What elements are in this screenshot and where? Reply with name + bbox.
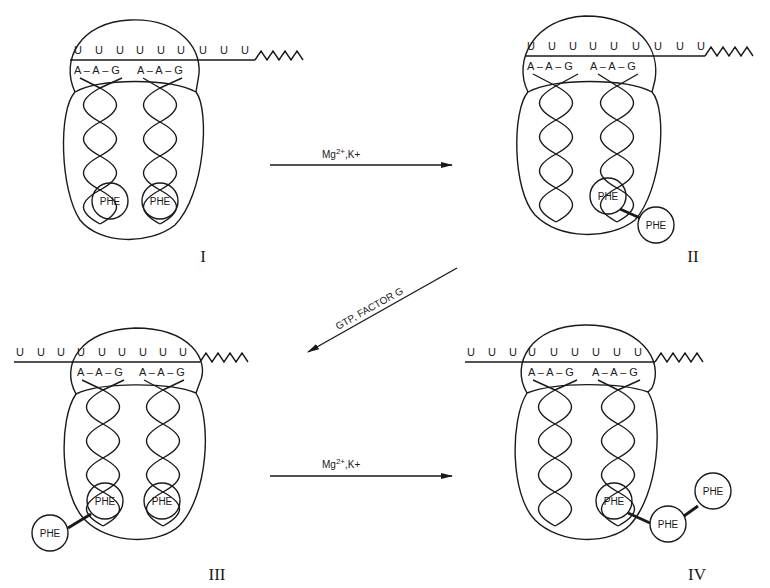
svg-text:GTP, FACTOR G: GTP, FACTOR G	[334, 285, 406, 332]
svg-text:U: U	[95, 44, 103, 56]
svg-text:U: U	[159, 346, 167, 358]
svg-text:U: U	[654, 40, 662, 52]
svg-text:A – A – G: A – A – G	[527, 60, 573, 72]
svg-text:U: U	[613, 346, 621, 358]
svg-text:A – A – G: A – A – G	[528, 366, 574, 378]
svg-text:U: U	[136, 44, 144, 56]
svg-text:U: U	[589, 40, 597, 52]
svg-text:U: U	[179, 346, 187, 358]
svg-text:U: U	[548, 40, 556, 52]
condition-label: Mg2+,K+	[322, 147, 360, 160]
svg-text:U: U	[488, 346, 496, 358]
svg-text:Mg2+,K+: Mg2+,K+	[322, 457, 360, 470]
svg-text:U: U	[77, 346, 85, 358]
svg-text:A – A – G: A – A – G	[139, 366, 185, 378]
anticodon-2: A – A – G	[137, 64, 183, 76]
svg-text:U: U	[118, 346, 126, 358]
svg-text:U: U	[177, 44, 185, 56]
panel-II: U U U U U U U U U A – A – G A – A – G PH…	[517, 16, 753, 266]
svg-text:IV: IV	[688, 565, 707, 584]
svg-text:U: U	[157, 44, 165, 56]
svg-text:U: U	[592, 346, 600, 358]
svg-text:III: III	[209, 565, 226, 584]
svg-text:A – A – G: A – A – G	[77, 366, 123, 378]
svg-text:II: II	[687, 247, 699, 266]
svg-text:PHE: PHE	[150, 196, 171, 207]
mrna-tail	[255, 51, 303, 60]
codons: U U U U U U U U U	[74, 44, 249, 56]
panel-IV: U U U U U U U U U A – A – G A – A – G PH…	[465, 325, 731, 584]
svg-text:U: U	[509, 346, 517, 358]
svg-text:PHE: PHE	[40, 528, 61, 539]
panel-III: U U U U U U U U U A – A – G A – A – G PH…	[14, 328, 248, 584]
svg-text:U: U	[610, 40, 618, 52]
large-subunit	[517, 82, 661, 235]
svg-text:U: U	[16, 346, 24, 358]
small-subunit	[523, 16, 656, 92]
svg-text:U: U	[74, 44, 82, 56]
arrow-I-to-II: Mg2+,K+	[270, 147, 452, 165]
svg-text:U: U	[98, 346, 106, 358]
svg-text:U: U	[116, 44, 124, 56]
svg-text:PHE: PHE	[152, 496, 173, 507]
svg-text:U: U	[528, 346, 536, 358]
svg-text:A – A – G: A – A – G	[590, 60, 636, 72]
svg-text:A – A – G: A – A – G	[592, 366, 638, 378]
svg-text:U: U	[569, 40, 577, 52]
svg-text:U: U	[199, 44, 207, 56]
svg-text:U: U	[241, 44, 249, 56]
svg-text:PHE: PHE	[95, 496, 116, 507]
svg-text:U: U	[550, 346, 558, 358]
svg-text:PHE: PHE	[100, 196, 121, 207]
svg-text:PHE: PHE	[703, 486, 724, 497]
svg-text:U: U	[676, 40, 684, 52]
svg-text:U: U	[632, 40, 640, 52]
svg-text:U: U	[467, 346, 475, 358]
svg-text:PHE: PHE	[658, 519, 679, 530]
panel-label: I	[200, 247, 206, 266]
large-subunit	[64, 82, 204, 240]
svg-text:PHE: PHE	[604, 496, 625, 507]
svg-text:U: U	[37, 346, 45, 358]
svg-text:PHE: PHE	[646, 220, 667, 231]
panel-I: U U U U U U U U U A – A – G A – A – G PH…	[64, 20, 303, 266]
arrow-II-to-III: GTP, FACTOR G	[308, 268, 457, 352]
svg-text:U: U	[57, 346, 65, 358]
codons: U U U U U U U U U	[527, 40, 705, 52]
svg-text:U: U	[139, 346, 147, 358]
svg-text:U: U	[571, 346, 579, 358]
arrow-III-to-IV: Mg2+,K+	[270, 457, 452, 476]
svg-text:U: U	[527, 40, 535, 52]
translation-diagram: U U U U U U U U U A – A – G A – A – G PH…	[0, 0, 770, 588]
svg-text:U: U	[697, 40, 705, 52]
svg-text:U: U	[220, 44, 228, 56]
anticodon-1: A – A – G	[74, 64, 120, 76]
svg-text:U: U	[634, 346, 642, 358]
svg-text:PHE: PHE	[598, 191, 619, 202]
